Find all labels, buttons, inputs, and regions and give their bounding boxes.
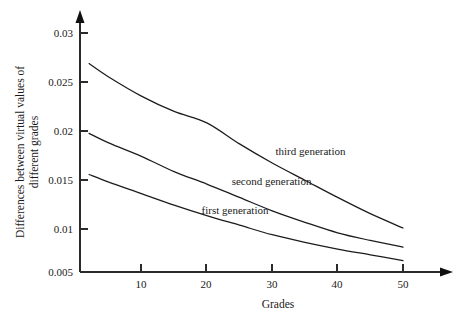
y-tick-label: 0.005: [48, 266, 73, 278]
x-axis-ticks: [141, 264, 403, 272]
chart-plot-area: 0.03 0.025 0.02 0.015 0.01 0.005 10 20 3…: [0, 0, 476, 320]
y-axis-title-line1: Differences between virtual values of: [14, 66, 26, 238]
y-tick-label: 0.025: [48, 76, 73, 88]
x-tick-label: 50: [398, 278, 410, 290]
series-label-first-generation: first generation: [202, 204, 269, 216]
series-curve-second-generation: [89, 133, 403, 247]
series-curve-first-generation: [89, 174, 403, 260]
x-tick-label: 40: [332, 278, 344, 290]
y-tick-label: 0.02: [54, 125, 73, 137]
series-label-second-generation: second generation: [232, 175, 312, 187]
y-axis-title-line2: different grades: [28, 115, 41, 188]
x-tick-label: 30: [267, 278, 279, 290]
y-axis-ticks: [80, 33, 88, 229]
x-tick-label: 20: [201, 278, 213, 290]
y-tick-label: 0.01: [54, 223, 73, 235]
x-axis-title: Grades: [262, 298, 295, 310]
chart-figure: 0.03 0.025 0.02 0.015 0.01 0.005 10 20 3…: [0, 0, 476, 320]
series-label-third-generation: third generation: [276, 145, 346, 157]
y-tick-label: 0.015: [48, 174, 73, 186]
y-axis-arrow-icon: [76, 10, 85, 23]
x-tick-label: 10: [136, 278, 148, 290]
y-axis-title: Differences between virtual values of di…: [14, 66, 41, 238]
x-axis-arrow-icon: [440, 268, 453, 277]
y-tick-label: 0.03: [54, 27, 74, 39]
